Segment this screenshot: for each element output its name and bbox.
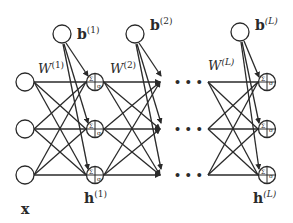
bias-node-1 — [53, 25, 71, 43]
sum-glyph: Σ — [261, 168, 265, 175]
sum-glyph: Σ — [261, 122, 265, 129]
activation-glyph: σ — [97, 82, 101, 89]
ellipsis: • • • — [174, 76, 203, 89]
bias-node-2 — [126, 25, 144, 43]
input-node — [16, 120, 34, 138]
input-node — [16, 73, 34, 91]
input-label: x — [21, 201, 30, 217]
weight-edges-layer-2 — [104, 82, 160, 175]
ellipsis: • • • — [174, 123, 203, 136]
hidden-L-label: h(L) — [253, 189, 277, 206]
hidden-1-label: h(1) — [84, 189, 107, 206]
input-layer — [16, 73, 34, 184]
activation-glyph: σ — [97, 129, 101, 136]
weight-L-label: W(L) — [208, 57, 235, 73]
activation-glyph: σ — [269, 79, 273, 86]
bias-L-label: b(L) — [255, 16, 278, 33]
neural-network-diagram: Σ σ Σ σ Σ σ Σ σ Σ σ Σ σ • • • • • • • • … — [0, 0, 293, 223]
sum-glyph: Σ — [261, 75, 265, 82]
bias-1-label: b(1) — [77, 25, 100, 42]
weight-2-label: W(2) — [110, 60, 136, 76]
sum-glyph: Σ — [89, 75, 93, 82]
sum-glyph: Σ — [89, 122, 93, 129]
weight-1-label: W(1) — [38, 60, 64, 76]
bias-edges-layer-2 — [136, 43, 161, 169]
input-node — [16, 166, 34, 184]
bias-edges-layer-1 — [63, 43, 88, 169]
bias-2-label: b(2) — [150, 16, 173, 33]
weight-edges-layer-L — [208, 82, 258, 175]
ellipsis: • • • — [174, 169, 203, 182]
activation-glyph: σ — [269, 172, 273, 179]
bias-node-L — [231, 23, 249, 41]
activation-glyph: σ — [269, 126, 273, 133]
sum-glyph: Σ — [89, 168, 93, 175]
activation-glyph: σ — [97, 175, 101, 182]
weight-edges-layer-1 — [34, 82, 86, 175]
bias-edges-layer-L — [241, 41, 259, 169]
